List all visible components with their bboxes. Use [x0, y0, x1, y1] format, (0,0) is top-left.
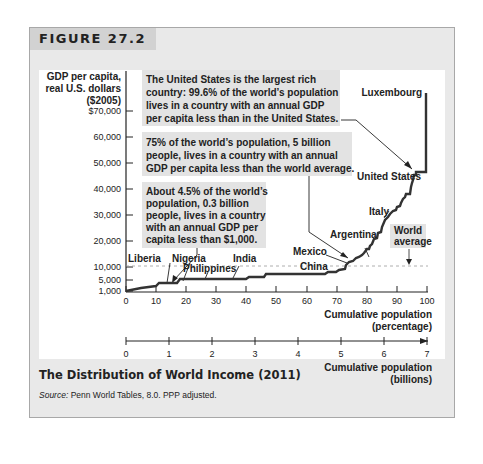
svg-text:0: 0 [123, 296, 128, 306]
svg-text:The United States is the large: The United States is the largest rich [146, 74, 316, 85]
label-argentina: Argentina [330, 229, 377, 240]
svg-text:60,000: 60,000 [93, 132, 121, 142]
svg-text:30: 30 [211, 296, 221, 306]
label-mexico: Mexico [293, 246, 327, 257]
svg-text:60: 60 [302, 296, 312, 306]
x2-axis-label: Cumulative population (billions) [324, 362, 432, 385]
svg-text:7: 7 [424, 349, 429, 359]
svg-text:GDP per capita,: GDP per capita, [47, 71, 122, 82]
label-china: China [300, 261, 328, 272]
avg-arrow-icon [340, 252, 348, 258]
svg-text:people, lives in a country: people, lives in a country [146, 210, 266, 221]
svg-text:4: 4 [295, 349, 300, 359]
world-average-box: World average [390, 224, 432, 265]
svg-text:10: 10 [151, 296, 161, 306]
label-united-states: United States [357, 171, 421, 182]
svg-text:real U.S. dollars: real U.S. dollars [45, 83, 121, 94]
svg-text:1: 1 [166, 349, 171, 359]
world-average-arrow-icon [406, 259, 412, 265]
svg-text:GDP per capita less than the w: GDP per capita less than the world avera… [146, 163, 354, 174]
label-india: India [233, 253, 257, 264]
svg-text:6: 6 [381, 349, 386, 359]
poor-annotation-box: About 4.5% of the world’s population, 0.… [142, 182, 268, 248]
us-annotation-box: The United States is the largest rich co… [142, 70, 340, 126]
svg-text:$70,000: $70,000 [88, 106, 121, 116]
label-luxembourg: Luxembourg [361, 87, 422, 98]
svg-text:per capita less than in the Un: per capita less than in the United State… [146, 113, 338, 124]
svg-text:20: 20 [181, 296, 191, 306]
svg-text:country: 99.6% of the world’s: country: 99.6% of the world’s population [146, 87, 338, 98]
label-philippines: Philippines [183, 263, 237, 274]
svg-text:10,000: 10,000 [93, 262, 121, 272]
svg-text:50,000: 50,000 [93, 158, 121, 168]
svg-text:75% of the world’s population,: 75% of the world’s population, 5 billion [146, 137, 331, 148]
chart-svg: GDP per capita, real U.S. dollars ($2005… [0, 0, 483, 464]
us-arrow-icon [404, 161, 412, 169]
svg-text:($2005): ($2005) [87, 95, 121, 106]
svg-text:people, lives in a country wit: people, lives in a country with an annua… [146, 150, 338, 161]
svg-text:40: 40 [241, 296, 251, 306]
svg-text:0: 0 [123, 349, 128, 359]
svg-text:80: 80 [362, 296, 372, 306]
svg-text:capita less than $1,000.: capita less than $1,000. [146, 234, 257, 245]
svg-text:(percentage): (percentage) [372, 321, 432, 332]
x-axis-label: Cumulative population (percentage) [324, 309, 432, 332]
svg-text:lives in a country with an ann: lives in a country with an annual GDP [146, 100, 325, 111]
label-italy: Italy [369, 206, 389, 217]
svg-text:population, 0.3 billion: population, 0.3 billion [146, 198, 249, 209]
svg-text:About 4.5% of the world’s: About 4.5% of the world’s [146, 186, 268, 197]
svg-text:30,000: 30,000 [93, 210, 121, 220]
svg-text:5,000: 5,000 [98, 275, 121, 285]
svg-text:50: 50 [271, 296, 281, 306]
avg-annotation-box: 75% of the world’s population, 5 billion… [142, 132, 354, 176]
svg-text:100: 100 [419, 296, 434, 306]
svg-text:20,000: 20,000 [93, 236, 121, 246]
svg-text:1,000: 1,000 [98, 286, 121, 296]
y-axis-label: GDP per capita, real U.S. dollars ($2005… [45, 71, 121, 106]
svg-text:(billions): (billions) [390, 374, 432, 385]
svg-text:2: 2 [209, 349, 214, 359]
x-axis-ticks: 0 10 20 30 40 50 60 70 80 90 100 [123, 286, 434, 306]
svg-text:5: 5 [338, 349, 343, 359]
label-liberia: Liberia [128, 253, 161, 264]
label-nigeria: Nigeria [172, 253, 206, 264]
svg-text:average: average [394, 236, 432, 247]
x2-axis-ticks: 0 1 2 3 4 5 6 7 [123, 337, 429, 359]
svg-text:3: 3 [252, 349, 257, 359]
svg-text:40,000: 40,000 [93, 184, 121, 194]
svg-text:90: 90 [392, 296, 402, 306]
svg-text:70: 70 [332, 296, 342, 306]
svg-text:World: World [394, 225, 422, 236]
svg-text:with an annual GDP per: with an annual GDP per [145, 222, 258, 233]
svg-text:Cumulative population: Cumulative population [324, 309, 432, 320]
svg-text:Cumulative population: Cumulative population [324, 362, 432, 373]
